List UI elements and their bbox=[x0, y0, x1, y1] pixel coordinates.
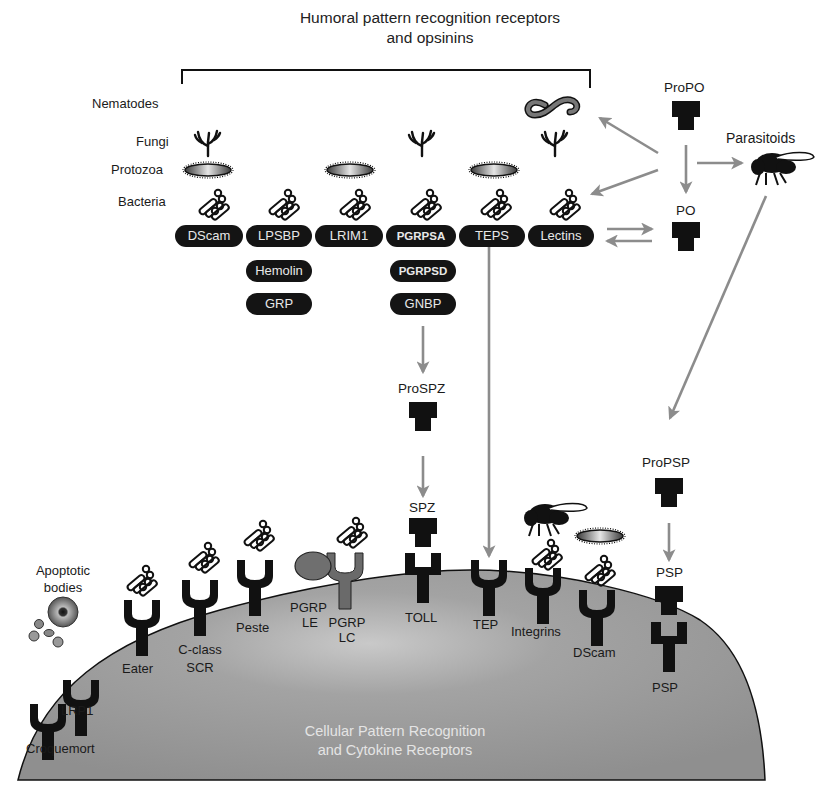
label-prospz: ProSPZ bbox=[398, 381, 445, 396]
label-lrp1: LRP1 bbox=[61, 703, 94, 718]
fungi-row bbox=[195, 131, 567, 156]
apoptotic-bodies-icon bbox=[29, 597, 78, 647]
title-bracket bbox=[182, 70, 590, 88]
pill-lrim1: LRIM1 bbox=[315, 225, 383, 247]
label-cclass-scr: C-class SCR bbox=[170, 641, 230, 677]
label-fungi: Fungi bbox=[136, 134, 169, 149]
label-nematodes: Nematodes bbox=[92, 96, 158, 111]
propsp-block bbox=[655, 478, 683, 507]
diagram-canvas bbox=[0, 0, 829, 800]
label-propsp: ProPSP bbox=[642, 455, 690, 470]
spz-block bbox=[409, 518, 437, 547]
label-propo: ProPO bbox=[664, 80, 705, 95]
bacteria-row bbox=[198, 190, 580, 221]
pill-lpsbp: LPSBP bbox=[246, 225, 312, 247]
label-parasitoids: Parasitoids bbox=[726, 130, 795, 146]
label-integrins: Integrins bbox=[511, 624, 561, 639]
label-apoptotic-bodies: Apoptotic bodies bbox=[26, 562, 100, 596]
label-peste: Peste bbox=[236, 620, 269, 635]
parasitoid-wasp-icon bbox=[751, 153, 814, 186]
title-line-1: Humoral pattern recognition receptors bbox=[250, 8, 610, 28]
prospz-block bbox=[409, 402, 437, 431]
propo-block bbox=[672, 101, 700, 130]
pill-lectins: Lectins bbox=[528, 225, 594, 247]
title-line-2: and opsinins bbox=[250, 28, 610, 48]
label-toll: TOLL bbox=[405, 610, 437, 625]
pill-grp: GRP bbox=[246, 293, 312, 315]
label-bacteria: Bacteria bbox=[118, 194, 166, 209]
label-tep: TEP bbox=[473, 617, 498, 632]
label-dscam-cellular: DScam bbox=[573, 645, 616, 660]
cell-label: Cellular Pattern Recognition and Cytokin… bbox=[250, 722, 540, 760]
pill-hemolin: Hemolin bbox=[246, 260, 312, 282]
label-croquemort: Croquemort bbox=[26, 741, 95, 756]
pill-pgrpsd: PGRPSD bbox=[390, 260, 456, 282]
pgrp-le-receptor bbox=[295, 552, 331, 580]
label-eater: Eater bbox=[122, 661, 153, 676]
diagram-title: Humoral pattern recognition receptors an… bbox=[250, 8, 610, 48]
label-psp-receptor: PSP bbox=[652, 680, 678, 695]
label-spz: SPZ bbox=[409, 500, 435, 515]
po-block bbox=[672, 222, 700, 251]
pill-dscam: DScam bbox=[175, 225, 243, 247]
pill-pgrpsa: PGRPSA bbox=[386, 225, 456, 247]
label-po: PO bbox=[676, 203, 696, 218]
pill-teps: TEPS bbox=[459, 225, 525, 247]
label-psp-ligand: PSP bbox=[656, 565, 683, 580]
protozoa-row bbox=[183, 162, 519, 178]
label-pgrp-le: PGRP LE bbox=[290, 600, 327, 630]
label-protozoa: Protozoa bbox=[111, 162, 163, 177]
pill-gnbp: GNBP bbox=[390, 293, 456, 315]
label-pgrp-lc: PGRP LC bbox=[325, 615, 369, 645]
